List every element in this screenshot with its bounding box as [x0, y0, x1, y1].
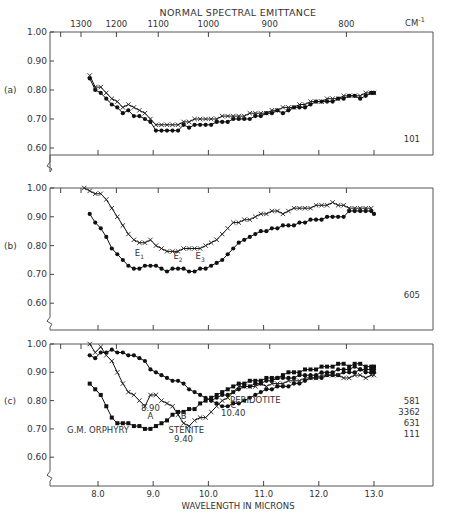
data-point: [270, 226, 274, 230]
data-point: [204, 123, 208, 127]
data-point: [220, 393, 224, 397]
data-point: [281, 376, 285, 380]
data-point: [126, 232, 130, 236]
data-point: [347, 367, 351, 371]
data-point: [336, 362, 340, 366]
data-point: [314, 100, 318, 104]
data-point: [226, 226, 230, 230]
annotation: B: [181, 411, 187, 421]
data-point: [308, 218, 312, 222]
data-point: [319, 100, 323, 104]
top-axis-unit-label: CM-1: [405, 16, 425, 28]
data-point: [104, 97, 108, 101]
data-point: [275, 376, 279, 380]
x-tick-label: 10.0: [199, 489, 218, 499]
data-point: [159, 398, 163, 402]
data-point: [115, 252, 119, 256]
data-point: [353, 94, 357, 98]
y-tick-label: 0.70: [27, 269, 47, 279]
data-point: [342, 215, 346, 219]
data-point: [176, 410, 180, 414]
panel-frame: [50, 188, 433, 330]
data-point: [110, 206, 114, 210]
data-point: [237, 117, 241, 121]
panel-c: 1.000.900.800.700.60(c)58133626311118.90…: [4, 339, 433, 486]
data-point: [171, 413, 175, 417]
data-point: [358, 97, 362, 101]
y-tick-label: 0.60: [27, 298, 47, 308]
annotation: E2: [173, 251, 182, 263]
data-point: [358, 209, 362, 213]
data-point: [115, 215, 119, 219]
data-point: [132, 238, 136, 242]
data-point: [248, 384, 252, 388]
data-point: [226, 252, 230, 256]
y-tick-label: 0.90: [27, 367, 47, 377]
data-point: [331, 100, 335, 104]
data-point: [320, 365, 324, 369]
data-point: [215, 261, 219, 265]
data-point: [137, 114, 141, 118]
data-point: [187, 269, 191, 273]
data-point: [342, 362, 346, 366]
data-point: [242, 117, 246, 121]
data-point: [336, 215, 340, 219]
data-point: [110, 102, 114, 106]
y-tick-label: 0.70: [27, 424, 47, 434]
data-point: [148, 427, 152, 431]
data-point: [342, 367, 346, 371]
data-point: [331, 215, 335, 219]
emittance-chart: 1300120011001000900800 1.000.900.800.700…: [0, 0, 451, 515]
x-tick-label: 9.0: [146, 489, 160, 499]
data-point: [226, 387, 230, 391]
data-point: [231, 246, 235, 250]
data-point: [110, 348, 114, 352]
data-point: [143, 264, 147, 268]
data-point: [198, 393, 202, 397]
data-point: [248, 117, 252, 121]
sample-id: 3362: [398, 407, 420, 417]
data-point: [110, 416, 114, 420]
data-point: [342, 97, 346, 101]
top-tick-label: 1200: [106, 19, 128, 29]
data-point: [132, 393, 136, 397]
data-point: [270, 111, 274, 115]
data-point: [159, 246, 163, 250]
data-point: [259, 382, 263, 386]
data-point: [372, 367, 376, 371]
data-point: [137, 108, 141, 112]
data-point: [214, 238, 218, 242]
data-point: [281, 111, 285, 115]
data-point: [331, 370, 335, 374]
data-point: [121, 223, 125, 227]
data-point: [132, 114, 136, 118]
data-point: [347, 209, 351, 213]
data-point: [137, 356, 141, 360]
data-point: [275, 226, 279, 230]
data-point: [132, 267, 136, 271]
data-point: [88, 382, 92, 386]
y-tick-label: 0.90: [27, 56, 47, 66]
data-point: [187, 387, 191, 391]
data-point: [170, 267, 174, 271]
data-point: [372, 91, 376, 95]
data-point: [159, 129, 163, 133]
data-point: [126, 353, 130, 357]
y-tick-label: 0.70: [27, 114, 47, 124]
data-point: [193, 123, 197, 127]
data-point: [264, 111, 268, 115]
data-point: [259, 390, 263, 394]
y-tick-label: 0.60: [27, 143, 47, 153]
data-point: [165, 401, 169, 405]
panel-label: (c): [4, 396, 16, 406]
x-tick-label: 12.0: [309, 489, 328, 499]
data-point: [286, 370, 290, 374]
data-point: [99, 350, 103, 354]
data-point: [314, 373, 318, 377]
series-cross: [82, 186, 373, 254]
top-tick-label: 1000: [198, 19, 220, 29]
data-point: [126, 102, 130, 106]
data-point: [170, 129, 174, 133]
x-tick-label: 8.0: [91, 489, 105, 499]
data-point: [292, 105, 296, 109]
